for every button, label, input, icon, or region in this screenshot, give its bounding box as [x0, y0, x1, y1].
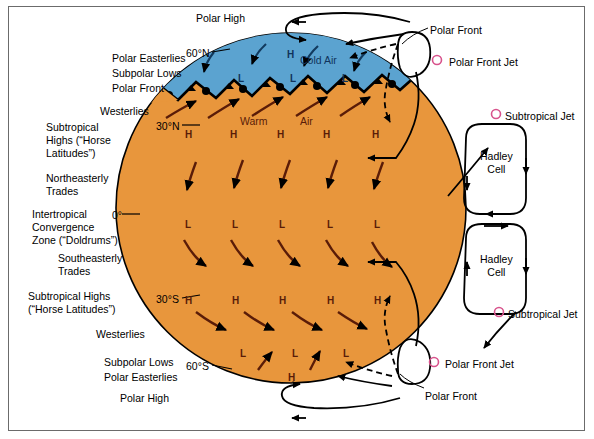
- cell-label-line1: Hadley: [480, 253, 513, 266]
- right-label-subtropical-jet-2: Subtropical Jet: [505, 110, 574, 122]
- globe-annotation-air: Air: [300, 115, 313, 127]
- cell-label-line1: Hadley: [480, 150, 513, 163]
- cell-label-line2: Cell: [480, 266, 513, 279]
- left-label-2: Polar Front: [112, 82, 164, 95]
- label-polar-high-north: Polar High: [196, 12, 245, 25]
- left-label-18: Polar Easterlies: [104, 371, 178, 384]
- left-label-1: Subpolar Lows: [112, 67, 181, 80]
- left-label-3: Westerlies: [100, 105, 149, 118]
- pressure-symbol-equatorial-lows-1: L: [232, 219, 238, 230]
- latitude-label-60S: 60°S: [186, 360, 209, 372]
- left-label-13: Trades: [58, 265, 90, 278]
- diagram-canvas: Polar HighPolar EasterliesSubpolar LowsP…: [0, 0, 594, 439]
- subtropical-jet-south-icon: [495, 308, 504, 317]
- pressure-symbol-subpolar-lows-n-0: L: [238, 73, 244, 84]
- polar-cell-south-loop: [398, 339, 431, 384]
- left-label-10: Convergence: [32, 221, 94, 234]
- left-label-7: Northeasterly: [46, 172, 108, 185]
- pressure-symbol-subtropical-highs-s-0: H: [185, 295, 192, 306]
- pressure-symbol-subpolar-lows-s-1: L: [292, 348, 298, 359]
- left-label-8: Trades: [46, 185, 78, 198]
- pressure-symbol-subpolar-lows-s-2: L: [343, 348, 349, 359]
- pressure-symbol-subtropical-highs-n-2: H: [277, 129, 284, 140]
- pressure-symbol-subpolar-lows-n-1: L: [290, 73, 296, 84]
- left-label-17: Subpolar Lows: [104, 356, 173, 369]
- cell-label-0: HadleyCell: [480, 150, 513, 175]
- cell-label-line2: Cell: [480, 163, 513, 176]
- right-label-polar-front-jet-4: Polar Front Jet: [445, 358, 514, 370]
- right-label-polar-front-5: Polar Front: [425, 390, 477, 402]
- left-label-15: (“Horse Latitudes”): [28, 303, 116, 316]
- subtropical-jet-north-icon: [492, 110, 501, 119]
- polar-front-jet-north-icon: [433, 56, 442, 65]
- pressure-symbol-equatorial-lows-4: L: [374, 219, 380, 230]
- latitude-label-30N: 30°N: [156, 120, 179, 132]
- left-label-16: Westerlies: [96, 328, 145, 341]
- left-label-9: Intertropical: [32, 208, 87, 221]
- latitude-label-30S: 30°S: [156, 293, 179, 305]
- polar-upper-flow-south: [282, 384, 400, 408]
- pressure-symbol-subpolar-lows-s-0: L: [240, 348, 246, 359]
- pressure-symbol-subtropical-highs-n-3: H: [323, 129, 330, 140]
- right-label-subtropical-jet-3: Subtropical Jet: [508, 308, 577, 320]
- pressure-symbol-subtropical-highs-n-4: H: [372, 129, 379, 140]
- pressure-symbol-subtropical-highs-n-0: H: [185, 129, 192, 140]
- pressure-symbol-equatorial-lows-3: L: [327, 219, 333, 230]
- pressure-symbol-north-polar-high-0: H: [287, 49, 294, 60]
- latitude-label-60N: 60°N: [186, 47, 209, 59]
- pressure-symbol-subtropical-highs-n-1: H: [230, 129, 237, 140]
- globe-annotation-cold-air: Cold Air: [300, 54, 337, 66]
- pressure-symbol-subpolar-lows-n-2: L: [342, 73, 348, 84]
- globe: [110, 10, 480, 383]
- right-label-polar-front-jet-1: Polar Front Jet: [449, 56, 518, 68]
- left-label-0: Polar Easterlies: [112, 52, 186, 65]
- left-label-6: Latitudes”): [46, 147, 96, 160]
- left-label-4: Subtropical: [46, 121, 99, 134]
- pressure-symbol-equatorial-lows-2: L: [279, 219, 285, 230]
- latitude-label-0: 0°: [112, 209, 122, 221]
- left-label-5: Highs (“Horse: [46, 134, 111, 147]
- left-label-19: Polar High: [120, 392, 169, 405]
- polar-cell-north-loop: [398, 32, 431, 77]
- pressure-symbol-south-polar-high-0: H: [288, 372, 295, 383]
- globe-annotation-warm: Warm: [240, 115, 268, 127]
- pressure-symbol-equatorial-lows-0: L: [185, 219, 191, 230]
- left-label-14: Subtropical Highs: [28, 290, 110, 303]
- pressure-symbol-subtropical-highs-s-2: H: [279, 295, 286, 306]
- left-label-12: Southeasterly: [58, 252, 122, 265]
- pressure-symbol-subtropical-highs-s-1: H: [232, 295, 239, 306]
- right-label-polar-front-0: Polar Front: [430, 24, 482, 36]
- pressure-symbol-subtropical-highs-s-4: H: [374, 295, 381, 306]
- pressure-symbol-subtropical-highs-s-3: H: [327, 295, 334, 306]
- cell-label-1: HadleyCell: [480, 253, 513, 278]
- left-label-11: Zone (“Doldrums”): [32, 234, 118, 247]
